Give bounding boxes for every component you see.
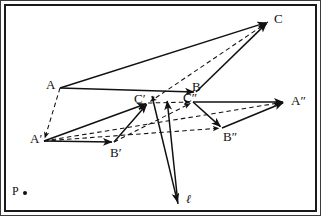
segment-Ap-Bp	[44, 141, 112, 142]
segment-l-axis	[152, 96, 178, 202]
segment-A-B	[60, 88, 194, 92]
label-point-C-double-prime: C″	[183, 91, 197, 104]
label-point-A-prime: A′	[30, 132, 42, 145]
label-point-C-prime: C′	[134, 92, 146, 105]
label-point-P: P	[12, 185, 19, 197]
diagram-canvas	[0, 0, 321, 216]
label-point-B-prime: B′	[110, 146, 122, 159]
label-line-l: ℓ	[186, 193, 191, 205]
solid-segments	[44, 23, 283, 204]
label-point-B-double-prime: B″	[223, 130, 237, 143]
segment-C-Cp	[150, 22, 268, 101]
segment-mid-arrow	[167, 101, 178, 204]
segment-A-C	[60, 23, 266, 88]
segment-Cpp-Bpp	[193, 102, 221, 127]
point-P-dot	[23, 191, 27, 195]
label-point-A-double-prime: A″	[291, 94, 306, 107]
segment-Bpp-App	[222, 103, 283, 128]
label-point-A: A	[46, 78, 55, 91]
segment-Ap-App	[44, 102, 282, 141]
segment-A-Ap	[45, 88, 60, 138]
geometry-figure: A B C A′ B′ C′ A″ B″ C″ P ℓ	[0, 0, 321, 216]
segment-Ap-Bpp	[44, 128, 219, 141]
label-point-C: C	[274, 12, 283, 25]
segment-Bp-Cpp	[114, 103, 190, 142]
